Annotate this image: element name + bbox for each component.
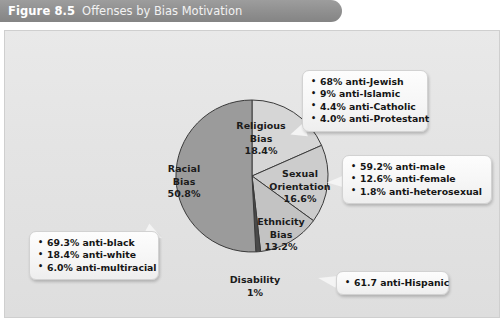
pie-label-ethnicity-line2: Bias (244, 229, 318, 242)
pie-label-ethnicity-value: 13.2% (244, 241, 318, 254)
pie-label-racial-line2: Bias (145, 176, 223, 189)
pie-label-religious-line2: Bias (224, 133, 298, 146)
leader-pointer-ethnicity (317, 272, 338, 288)
figure-title-bar: Figure 8.5 Offenses by Bias Motivation (0, 0, 342, 22)
pie-label-sexual-value: 16.6% (258, 193, 342, 206)
callout-religious-item: 68% anti-Jewish (311, 76, 418, 88)
callout-racial-item: 18.4% anti-white (38, 249, 149, 261)
pie-label-ethnicity-line1: Ethnicity (244, 216, 318, 229)
callout-religious-item: 4.0% anti-Protestant (311, 113, 418, 125)
callout-ethnicity-bias: 61.7 anti-Hispanic (336, 271, 449, 295)
pie-label-disability-value: 1% (210, 287, 300, 300)
pie-label-disability: Disability 1% (210, 274, 300, 299)
pie-label-racial-value: 50.8% (145, 188, 223, 201)
pie-label-religious-line1: Religious (224, 120, 298, 133)
callout-religious-bias: 68% anti-Jewish 9% anti-Islamic 4.4% ant… (302, 70, 428, 132)
figure-panel: Racial Bias 50.8% Religious Bias 18.4% S… (4, 30, 500, 318)
pie-label-racial-line1: Racial (145, 163, 223, 176)
callout-sexual-item: 12.6% anti-female (351, 173, 482, 185)
callout-religious-item: 9% anti-Islamic (311, 88, 418, 100)
callout-racial-item: 69.3% anti-black (38, 237, 149, 249)
pie-label-religious-value: 18.4% (224, 145, 298, 158)
pie-label-religious: Religious Bias 18.4% (224, 120, 298, 158)
callout-racial-item: 6.0% anti-multiracial (38, 262, 149, 274)
callout-religious-item: 4.4% anti-Catholic (311, 101, 418, 113)
callout-racial-bias: 69.3% anti-black 18.4% anti-white 6.0% a… (29, 231, 159, 280)
callout-ethnicity-list: 61.7 anti-Hispanic (345, 277, 439, 289)
callout-sexual-orientation: 59.2% anti-male 12.6% anti-female 1.8% a… (342, 155, 492, 204)
callout-racial-list: 69.3% anti-black 18.4% anti-white 6.0% a… (38, 237, 149, 274)
callout-religious-list: 68% anti-Jewish 9% anti-Islamic 4.4% ant… (311, 76, 418, 126)
figure-title: Offenses by Bias Motivation (82, 4, 242, 18)
pie-label-ethnicity: Ethnicity Bias 13.2% (244, 216, 318, 254)
callout-sexual-item: 59.2% anti-male (351, 161, 482, 173)
pie-label-racial: Racial Bias 50.8% (145, 163, 223, 201)
callout-sexual-list: 59.2% anti-male 12.6% anti-female 1.8% a… (351, 161, 482, 198)
pie-label-disability-line1: Disability (210, 274, 300, 287)
figure-number: Figure 8.5 (8, 4, 75, 18)
callout-ethnicity-item: 61.7 anti-Hispanic (345, 277, 439, 289)
callout-sexual-item: 1.8% anti-heterosexual (351, 186, 482, 198)
